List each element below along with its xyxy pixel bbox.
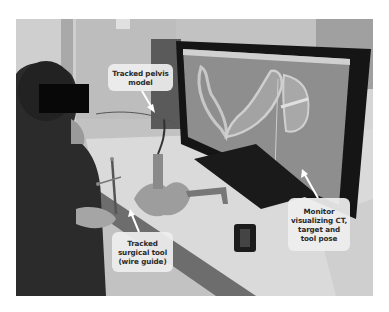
- label-line: model: [128, 78, 152, 87]
- face-privacy-box: [39, 84, 89, 113]
- label-line: (wire guide): [118, 257, 166, 266]
- label-line: visualizing CT,: [291, 216, 347, 225]
- label-tracked-surgical-tool: Tracked surgical tool (wire guide): [112, 232, 173, 272]
- label-tracked-pelvis-model: Tracked pelvis model: [108, 64, 173, 91]
- label-line: target and: [298, 225, 340, 234]
- photo-scene: [16, 19, 373, 296]
- label-line: Tracked: [127, 239, 158, 248]
- label-monitor: Monitor visualizing CT, target and tool …: [288, 198, 350, 251]
- label-line: Tracked pelvis: [112, 69, 168, 78]
- label-line: surgical tool: [118, 248, 167, 257]
- setup-photograph: [16, 19, 373, 296]
- label-line: Monitor: [304, 207, 335, 216]
- label-line: tool pose: [301, 234, 338, 243]
